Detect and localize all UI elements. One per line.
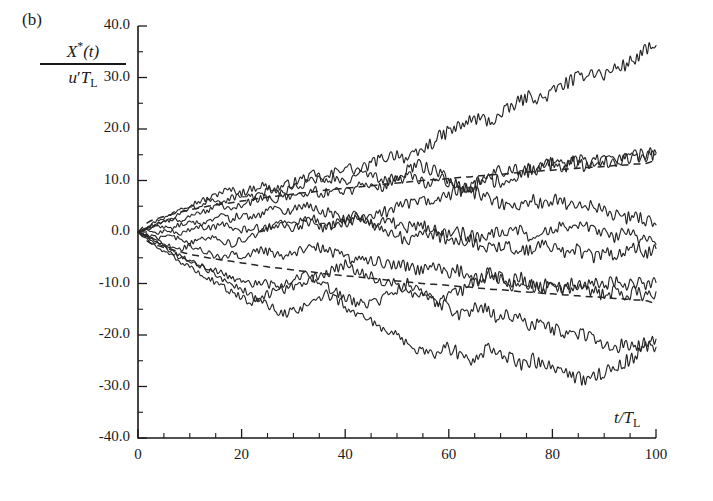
y-tick-label: -20.0 xyxy=(60,325,130,342)
y-tick-label: 40.0 xyxy=(60,16,130,33)
y-tick-label: 10.0 xyxy=(60,171,130,188)
x-axis-label: t/TL xyxy=(614,408,640,431)
y-tick-label: -10.0 xyxy=(60,274,130,291)
x-tick-label: 0 xyxy=(108,446,168,463)
axis-group xyxy=(138,26,656,438)
axis-lines xyxy=(138,26,656,438)
y-tick-label: -40.0 xyxy=(60,428,130,445)
trajectory-2 xyxy=(138,150,656,232)
figure-panel-b: (b) X*(t) u′TL t/TL 40.030.020.010.00.0-… xyxy=(0,0,713,501)
trajectory-4 xyxy=(138,202,656,244)
y-tick-label: -30.0 xyxy=(60,377,130,394)
series-group xyxy=(138,43,656,385)
y-tick-label: 30.0 xyxy=(60,68,130,85)
fraction-bar xyxy=(40,63,126,65)
y-tick-label: 20.0 xyxy=(60,119,130,136)
envelope-upper xyxy=(138,160,656,232)
trajectory-10 xyxy=(138,232,656,385)
y-axis-label-numerator: X*(t) xyxy=(40,40,126,62)
x-tick-label: 80 xyxy=(522,446,582,463)
y-tick-label: 0.0 xyxy=(60,222,130,239)
x-tick-label: 60 xyxy=(419,446,479,463)
panel-label: (b) xyxy=(22,10,42,30)
x-tick-label: 40 xyxy=(315,446,375,463)
x-tick-label: 20 xyxy=(212,446,272,463)
x-tick-label: 100 xyxy=(626,446,686,463)
